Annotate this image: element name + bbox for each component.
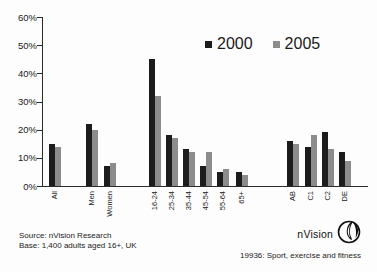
- x-axis: [42, 186, 368, 187]
- legend-label-2000: 2000: [217, 35, 253, 53]
- bar-2005-C1: [311, 135, 317, 186]
- bar-2005-Women: [110, 163, 116, 186]
- bar-2005-All: [55, 147, 61, 186]
- bar-2005-35-44: [189, 152, 195, 186]
- y-tick: [37, 186, 42, 187]
- y-tick-label: 20%: [7, 124, 37, 135]
- source-line: Source: nVision Research: [19, 231, 137, 241]
- y-tick-label: 0%: [7, 181, 37, 192]
- bar-2005-25-34: [172, 138, 178, 186]
- y-tick: [37, 158, 42, 159]
- bar-2005-16-24: [155, 96, 161, 186]
- caption-text: 19936: Sport, exercise and fitness: [240, 251, 361, 260]
- y-tick-label: 30%: [7, 96, 37, 107]
- y-tick-label: 50%: [7, 40, 37, 51]
- x-category-label: 45-54: [201, 191, 211, 231]
- legend-label-2005: 2005: [285, 35, 321, 53]
- bar-2005-DE: [345, 161, 351, 186]
- bar-2005-AB: [293, 144, 299, 186]
- legend-item-2005: 2005: [273, 35, 321, 53]
- x-category-label: All: [50, 191, 60, 231]
- brand-name: nVision: [297, 228, 333, 240]
- y-tick: [37, 130, 42, 131]
- source-note: Source: nVision Research Base: 1,400 adu…: [19, 231, 137, 251]
- legend-item-2000: 2000: [205, 35, 253, 53]
- y-tick-label: 10%: [7, 152, 37, 163]
- bar-2005-45-54: [206, 152, 212, 186]
- legend-swatch-2000: [205, 41, 212, 48]
- x-category-label: Women: [105, 191, 115, 231]
- x-category-label: 16-24: [150, 191, 160, 231]
- y-tick: [37, 45, 42, 46]
- y-tick-label: 60%: [7, 12, 37, 23]
- nvision-logo-icon: [336, 218, 363, 249]
- legend-swatch-2005: [273, 41, 280, 48]
- bar-2005-Men: [92, 130, 98, 186]
- y-tick: [37, 102, 42, 103]
- x-category-label: Men: [87, 191, 97, 231]
- y-axis: [42, 17, 43, 187]
- y-tick: [37, 17, 42, 18]
- x-category-label: 55-64: [218, 191, 228, 231]
- bar-2005-C2: [328, 149, 334, 186]
- brand-block: nVision: [297, 218, 363, 249]
- base-line: Base: 1,400 adults aged 16+, UK: [19, 241, 137, 251]
- x-category-label: 65+: [237, 191, 247, 231]
- x-category-label: 35-44: [184, 191, 194, 231]
- bar-2005-65+: [242, 175, 248, 186]
- y-tick-label: 40%: [7, 68, 37, 79]
- chart-legend: 2000 2005: [205, 35, 320, 53]
- chart-slide: 2000 2005 60%50%40%30%20%10%0%AllMenWome…: [0, 0, 377, 272]
- bar-2005-55-64: [223, 169, 229, 186]
- x-category-label: 25-34: [167, 191, 177, 231]
- y-tick: [37, 73, 42, 74]
